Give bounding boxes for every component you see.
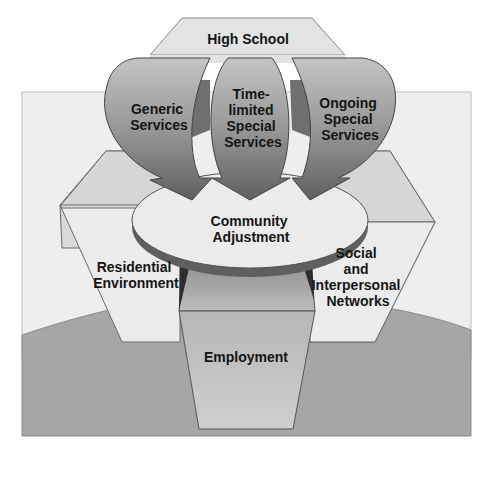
residential-environment-label: Residential Environment	[93, 259, 179, 291]
transition-model-diagram: High School Generic Services Time- limit…	[0, 0, 491, 499]
time-limited-services-label: Time- limited Special Services	[224, 86, 282, 150]
employment-label: Employment	[204, 349, 288, 365]
high-school-label: High School	[207, 31, 289, 47]
employment-column	[179, 311, 315, 429]
community-adjustment-label: Community Adjustment	[211, 213, 292, 245]
generic-services-label: Generic Services	[130, 101, 188, 133]
ongoing-services-label: Ongoing Special Services	[319, 95, 380, 143]
